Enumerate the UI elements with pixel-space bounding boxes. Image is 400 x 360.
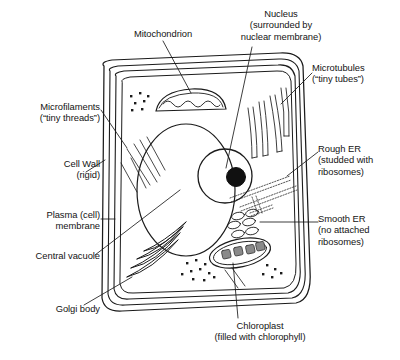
chloroplast	[207, 233, 273, 273]
label-plasma-membrane: Plasma (cell) membrane	[8, 209, 100, 232]
grana	[221, 241, 265, 259]
microfilaments	[121, 137, 165, 192]
label-golgi-body: Golgi body	[16, 303, 100, 314]
leader-nucleus	[226, 47, 252, 168]
central-vacuole	[137, 124, 235, 256]
label-smooth-er: Smooth ER (no attached ribosomes)	[318, 213, 400, 247]
label-central-vacuole: Central vacuole	[4, 250, 100, 261]
microtubules	[248, 88, 289, 158]
label-cell-wall: Cell Wall (rigid)	[16, 158, 100, 181]
label-rough-er: Rough ER (studded with ribosomes)	[318, 143, 400, 177]
label-mitochondrion: Mitochondrion	[113, 28, 213, 39]
leader-lines	[84, 41, 318, 318]
plasma-membrane-boundary	[114, 65, 300, 299]
leader-chloroplast	[233, 263, 238, 318]
mitochondrion-cristae	[163, 101, 220, 107]
cell-wall-outer-boundary	[102, 53, 310, 311]
nucleolus	[227, 168, 246, 187]
label-microtubules: Microtubules (“tiny tubes”)	[312, 62, 398, 85]
label-chloroplast: Chloroplast (filled with chlorophyll)	[176, 320, 344, 343]
leader-microfilaments	[101, 110, 127, 148]
leader-microtubules	[281, 73, 312, 104]
golgi-body	[127, 222, 186, 277]
leader-mitochondrion	[163, 41, 191, 93]
label-nucleus: Nucleus (surrounded by nuclear membrane)	[222, 8, 340, 42]
label-microfilaments: Microfilaments (“tiny threads”)	[8, 101, 100, 124]
